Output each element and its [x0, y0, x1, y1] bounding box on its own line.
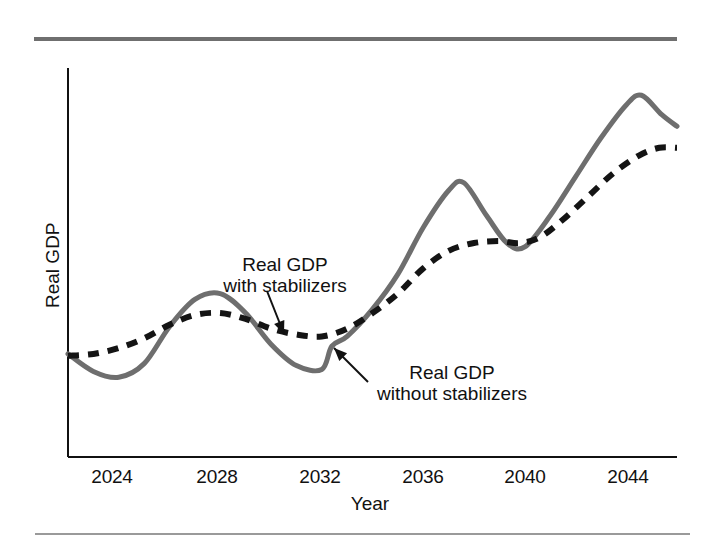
series-line-with-stabilizers	[68, 147, 677, 356]
chart-plot-area	[0, 0, 714, 543]
x-tick-label-2032: 2032	[299, 466, 340, 488]
annotation-with-stabilizers-line2: with stabilizers	[223, 275, 347, 296]
x-tick-label-2040: 2040	[504, 466, 545, 488]
annotation-without-stabilizers-line2: without stabilizers	[377, 383, 527, 404]
x-tick-label-2044: 2044	[607, 466, 648, 488]
figure-container: 2024 2028 2032 2036 2040 2044 Year Real …	[0, 0, 714, 543]
annotation-with-stabilizers: Real GDP with stabilizers	[223, 254, 347, 296]
annotation-without-stabilizers-line1: Real GDP	[377, 362, 527, 383]
x-tick-label-2024: 2024	[91, 466, 132, 488]
annotation-with-stabilizers-line1: Real GDP	[223, 254, 347, 275]
series-line-without-stabilizers	[68, 95, 677, 378]
x-axis-title: Year	[351, 493, 389, 515]
series-group	[68, 95, 677, 378]
axis-lines	[68, 68, 677, 457]
annotation-without-stabilizers: Real GDP without stabilizers	[377, 362, 527, 404]
x-tick-label-2036: 2036	[402, 466, 443, 488]
x-tick-label-2028: 2028	[196, 466, 237, 488]
y-axis-title: Real GDP	[42, 222, 64, 308]
